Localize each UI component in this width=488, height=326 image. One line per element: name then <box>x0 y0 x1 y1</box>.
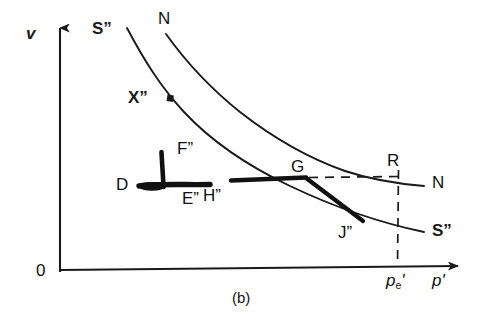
curve-label-s-start: S” <box>92 20 112 37</box>
x-axis-label: p' <box>432 272 445 289</box>
point-label-r: R <box>387 152 399 169</box>
origin-label: 0 <box>36 262 45 279</box>
segment-g-to-j <box>306 178 363 221</box>
figure-caption: (b) <box>232 290 250 305</box>
curve-label-n-start: N <box>158 10 170 27</box>
x-tick-prime: ' <box>401 271 404 290</box>
point-label-f-double-prime: F” <box>177 140 193 157</box>
point-label-d: D <box>116 176 128 193</box>
point-marker-x-double-prime <box>167 95 174 102</box>
dashed-line-horizontal-g-r <box>309 177 399 178</box>
dashed-line-vertical-pe <box>398 170 399 266</box>
point-label-x-double-prime: X” <box>128 89 148 106</box>
curve-label-n-end: N <box>432 174 444 191</box>
curve-label-s-end: S” <box>432 222 452 239</box>
point-label-e-double-prime: E” <box>182 190 199 207</box>
point-label-g: G <box>291 158 304 175</box>
figure-container: v 0 p' pe' S” N X” F” D E” H” G R J” N S… <box>0 0 488 326</box>
segment-h-to-g <box>231 178 306 181</box>
x-axis <box>60 266 458 270</box>
x-tick-label-pe: pe' <box>386 272 404 290</box>
figure-drawing <box>0 0 488 326</box>
point-label-j-double-prime: J” <box>338 224 352 241</box>
y-axis-label: v <box>26 25 35 42</box>
curve-s-double-prime <box>127 28 424 232</box>
segment-f-double-prime <box>162 152 164 187</box>
point-label-h-double-prime: H” <box>203 187 221 204</box>
